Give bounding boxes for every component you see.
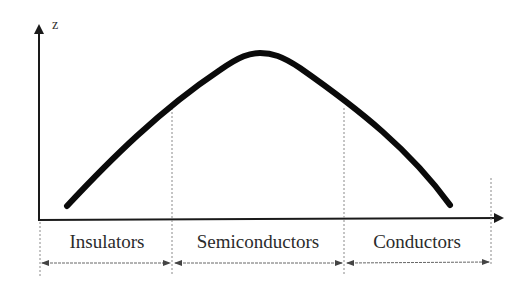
region-label-insulators: Insulators [70, 231, 145, 253]
x-axis [38, 218, 502, 220]
z-curve [67, 53, 450, 206]
y-axis-label: z [52, 17, 58, 33]
region-span-arrows [42, 262, 489, 263]
region-label-conductors: Conductors [373, 231, 461, 253]
conductors-span-arrow [347, 262, 489, 263]
region-label-semiconductors: Semiconductors [197, 231, 319, 253]
